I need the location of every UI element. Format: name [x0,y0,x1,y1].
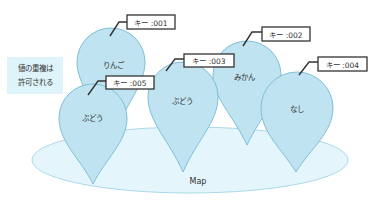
map-label: Map [190,177,207,186]
key-text: キー :002 [269,31,302,40]
note-line-1: 値の重複は [18,63,54,73]
map-diagram: Map 値の重複は 許可される りんご みかん ぶどう なし ぶどう キー :0… [0,0,380,206]
pin-value-label: ぶどう [82,114,103,123]
note-duplicate-values: 値の重複は 許可される [7,57,63,94]
pin-value-label: みかん [234,73,256,82]
key-text: キー :001 [134,19,167,28]
key-label-004: キー :004 [299,57,367,75]
pin-value-label: なし [290,105,304,114]
key-text: キー :003 [192,57,225,66]
pin-value-label: りんご [103,60,125,70]
note-line-2: 許可される [18,77,53,87]
key-text: キー :004 [326,61,359,70]
key-text: キー :005 [113,79,146,88]
pin-value-label: ぶどう [172,97,193,106]
note-background [7,57,63,94]
